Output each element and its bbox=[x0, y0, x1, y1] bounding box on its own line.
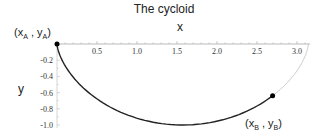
svg-text:3.0: 3.0 bbox=[292, 47, 302, 56]
point-b-marker bbox=[270, 93, 275, 98]
svg-text:-0.6: -0.6 bbox=[40, 89, 53, 98]
point-b-label: (xB , yB) bbox=[245, 117, 282, 131]
point-a-label: (xA , yA) bbox=[14, 26, 51, 40]
svg-text:-1.0: -1.0 bbox=[40, 121, 53, 130]
cycloid-continuation-line bbox=[273, 44, 309, 96]
x-ticks: 0.51.01.52.02.53.0 bbox=[65, 41, 305, 56]
svg-text:1.5: 1.5 bbox=[172, 47, 182, 56]
svg-text:0.5: 0.5 bbox=[92, 47, 102, 56]
svg-text:-0.4: -0.4 bbox=[40, 72, 53, 81]
svg-text:-0.2: -0.2 bbox=[40, 56, 53, 65]
point-a-marker bbox=[55, 42, 60, 47]
svg-text:1.0: 1.0 bbox=[132, 47, 142, 56]
cycloid-path-line bbox=[57, 44, 273, 125]
svg-text:2.0: 2.0 bbox=[212, 47, 222, 56]
cycloid-plot: 0.51.01.52.02.53.0 -0.2-0.4-0.6-0.8-1.0 … bbox=[0, 0, 328, 140]
svg-text:-0.8: -0.8 bbox=[40, 105, 53, 114]
svg-text:2.5: 2.5 bbox=[252, 47, 262, 56]
